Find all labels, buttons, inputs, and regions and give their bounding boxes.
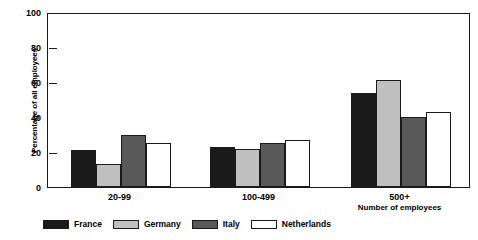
legend-label: Netherlands — [282, 220, 331, 229]
y-tick-label: 100 — [26, 9, 41, 18]
bar-group-bars — [71, 14, 171, 187]
x-group-label: 500+ — [389, 192, 409, 202]
y-tick-mark — [49, 153, 57, 154]
plot-area — [47, 13, 470, 188]
legend-swatch-icon — [113, 220, 139, 229]
bar-france-500+ — [351, 93, 376, 188]
bar-group — [210, 14, 310, 187]
x-group-label: 20-99 — [108, 192, 131, 202]
bar-germany-20-99 — [96, 164, 121, 187]
y-tick-label: 80 — [31, 44, 41, 53]
chart-legend: FranceGermanyItalyNetherlands — [43, 220, 331, 229]
bar-france-100-499 — [210, 147, 235, 187]
legend-label: Germany — [144, 220, 181, 229]
y-tick-label: 0 — [36, 184, 41, 193]
x-group-label: 100-499 — [242, 192, 275, 202]
legend-swatch-icon — [192, 220, 218, 229]
legend-swatch-icon — [251, 220, 277, 229]
y-axis-title: Percentage of all employees — [30, 11, 39, 191]
y-tick-mark — [49, 48, 57, 49]
x-axis-title: Number of employees — [358, 203, 442, 212]
chart-figure: Percentage of all employees 020406080100… — [0, 0, 478, 240]
bar-germany-100-499 — [235, 149, 260, 188]
legend-label: France — [74, 220, 102, 229]
legend-swatch-icon — [43, 220, 69, 229]
bar-groups — [48, 14, 469, 187]
bar-italy-100-499 — [260, 143, 285, 187]
y-tick-label: 40 — [31, 114, 41, 123]
legend-item-germany[interactable]: Germany — [113, 220, 181, 229]
bar-group — [71, 14, 171, 187]
bar-group — [351, 14, 451, 187]
y-tick-mark — [49, 83, 57, 84]
bar-italy-20-99 — [121, 135, 146, 188]
bar-group-bars — [351, 14, 451, 187]
bar-italy-500+ — [401, 117, 426, 187]
y-tick-label: 60 — [31, 79, 41, 88]
bar-france-20-99 — [71, 150, 96, 187]
bar-germany-500+ — [376, 80, 401, 187]
y-tick-label: 20 — [31, 149, 41, 158]
bar-netherlands-100-499 — [285, 140, 310, 187]
legend-item-france[interactable]: France — [43, 220, 102, 229]
legend-label: Italy — [223, 220, 240, 229]
bar-netherlands-20-99 — [146, 143, 171, 187]
legend-item-netherlands[interactable]: Netherlands — [251, 220, 331, 229]
bar-group-bars — [210, 14, 310, 187]
legend-item-italy[interactable]: Italy — [192, 220, 240, 229]
bar-netherlands-500+ — [426, 112, 451, 187]
